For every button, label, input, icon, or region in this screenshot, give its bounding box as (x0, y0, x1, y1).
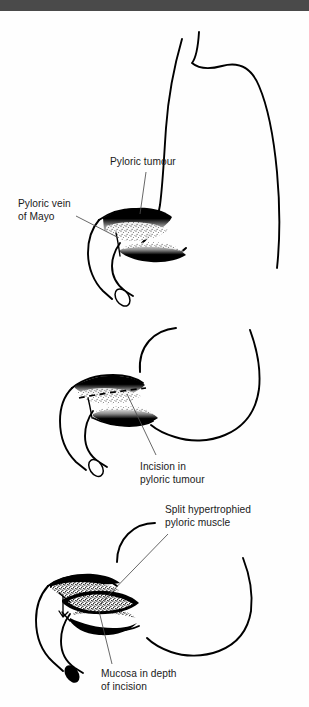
pyloromyotomy-figure: Pyloric tumour Pyloric vein of Mayo (0, 0, 309, 707)
split-muscle-lower-edge-p3 (70, 618, 137, 635)
illustration-page: Pyloric tumour Pyloric vein of Mayo (0, 0, 309, 707)
stomach-greater-curvature-p2 (151, 330, 260, 441)
duodenum-outer-wall-p2 (60, 388, 86, 470)
panel-1-group: Pyloric tumour Pyloric vein of Mayo (18, 32, 279, 309)
pyloric-tumour-label: Pyloric tumour (110, 156, 176, 167)
duodenum-cut-end-p2 (86, 457, 107, 479)
pyloric-vein-of-mayo-label: Pyloric vein of Mayo (18, 198, 74, 222)
duodenum-outer-wall-p3 (36, 586, 63, 671)
split-hypertrophied-pyloric-muscle-label: Split hypertrophied pyloric muscle (165, 504, 254, 528)
panel-2-group: Incision in pyloric tumour (60, 328, 260, 485)
duodenum-cut-end-p1 (112, 286, 133, 309)
leader-split-hypertrophied-pyloric-muscle (100, 534, 168, 604)
stomach-upper-wall-p3 (117, 523, 155, 562)
mucosa-in-depth-of-incision-label: Mucosa in depth of incision (101, 668, 179, 692)
incision-in-pyloric-tumour-label: Incision in pyloric tumour (140, 461, 205, 485)
leader-pyloric-tumour (140, 172, 146, 214)
stomach-greater-curvature-p3 (147, 558, 252, 656)
panel-3-group: Split hypertrophied pyloric muscle Mucos… (36, 504, 254, 692)
duodenum-cut-end-p3 (61, 662, 82, 685)
leader-mucosa-in-depth-of-incision (99, 611, 112, 664)
stomach-greater-curvature-p1 (192, 32, 279, 268)
stomach-upper-wall-p2 (140, 328, 176, 372)
